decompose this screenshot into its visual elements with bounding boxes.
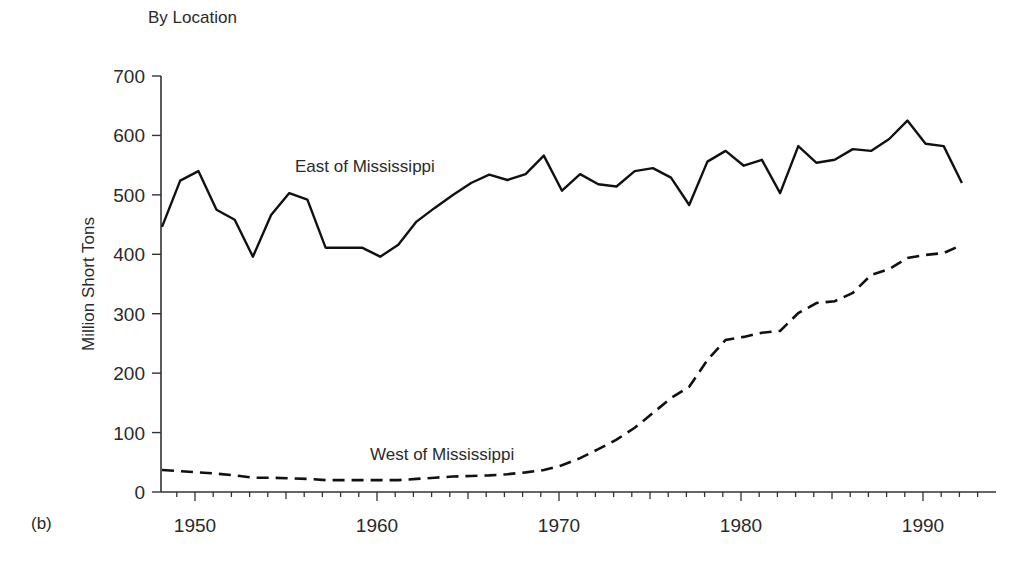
- west-series-label: West of Mississippi: [370, 445, 514, 464]
- east-series-label: East of Mississippi: [295, 157, 435, 176]
- panel-title: By Location: [148, 8, 237, 27]
- x-tick-label: 1970: [538, 515, 580, 536]
- y-axis-title: Million Short Tons: [79, 217, 98, 351]
- y-tick-label: 300: [113, 304, 145, 325]
- x-tick-label: 1960: [356, 515, 398, 536]
- coal-production-chart: By Location 0100200300400500600700 19501…: [0, 0, 1022, 568]
- y-tick-label: 500: [113, 185, 145, 206]
- y-tick-label: 600: [113, 125, 145, 146]
- y-tick-label: 200: [113, 363, 145, 384]
- east-of-mississippi-line: [162, 121, 962, 257]
- x-axis: 19501960197019801990: [161, 492, 996, 536]
- x-tick-label: 1950: [174, 515, 216, 536]
- y-tick-label: 400: [113, 244, 145, 265]
- west-of-mississippi-line: [162, 245, 962, 480]
- y-axis: 0100200300400500600700: [113, 66, 161, 503]
- y-tick-label: 0: [134, 482, 145, 503]
- x-tick-label: 1980: [720, 515, 762, 536]
- y-tick-label: 100: [113, 423, 145, 444]
- x-tick-label: 1990: [902, 515, 944, 536]
- panel-tag: (b): [31, 514, 52, 533]
- y-tick-label: 700: [113, 66, 145, 87]
